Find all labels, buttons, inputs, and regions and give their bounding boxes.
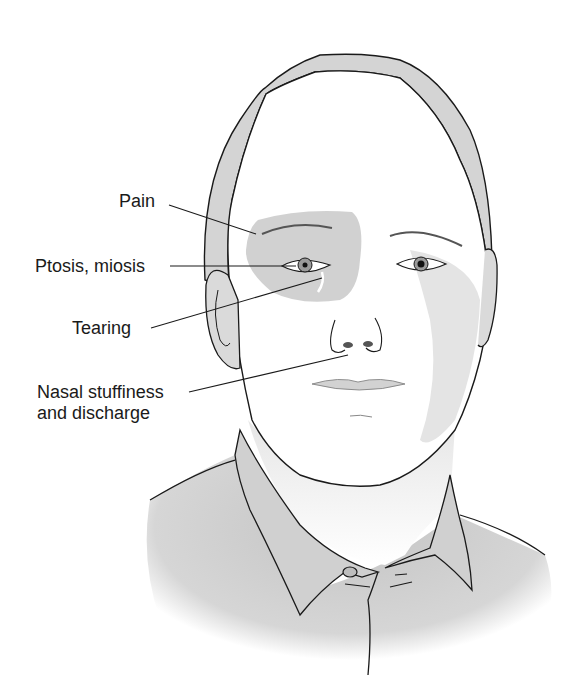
diagram-canvas: Pain Ptosis, miosis Tearing Nasal stuffi… xyxy=(0,0,583,695)
face-illustration xyxy=(0,0,583,695)
label-and-discharge: and discharge xyxy=(37,403,150,423)
shirt-button xyxy=(343,567,357,577)
label-pain: Pain xyxy=(119,191,155,211)
label-nasal-stuffiness: Nasal stuffiness xyxy=(37,382,164,402)
label-ptosis-miosis: Ptosis, miosis xyxy=(35,256,145,276)
label-tearing: Tearing xyxy=(72,318,131,338)
